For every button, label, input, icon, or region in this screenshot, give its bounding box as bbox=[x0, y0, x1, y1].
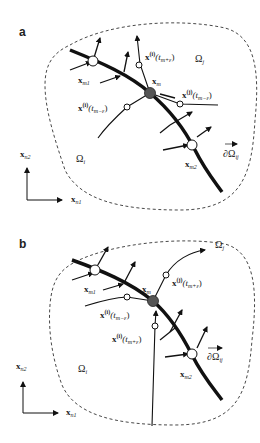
diagram-b: Ωj xm x(j)(tm+ε) xm1 x(i)(tm−ε) x(i)(tm+… bbox=[0, 220, 260, 443]
point-m1-marker bbox=[88, 56, 98, 66]
label-omega-i: Ωi bbox=[78, 363, 87, 375]
interface-curve bbox=[70, 50, 222, 192]
label-boundary: ∂Ωij bbox=[207, 351, 223, 363]
label-omega-j: Ωj bbox=[215, 239, 224, 251]
label-axis-x: xn1 bbox=[66, 407, 77, 418]
label-traj-upper: x(j)(tm+ε) bbox=[172, 277, 202, 289]
label-axis-y: xn2 bbox=[20, 149, 31, 160]
label-traj-lower: x(i)(tm+ε) bbox=[112, 333, 141, 345]
label-traj-left: x(i)(tm−ε) bbox=[78, 102, 107, 114]
label-point-m2: xm2 bbox=[185, 159, 197, 170]
label-omega-j: Ωj bbox=[195, 53, 204, 65]
label-point-m1: xm1 bbox=[84, 284, 96, 295]
traj-upper-marker bbox=[136, 62, 142, 68]
point-m-marker bbox=[148, 296, 159, 307]
diagram-a: x(i)(tm+ε) Ωj xm x(j)(tm−ε) x(i)(tm−ε) x… bbox=[0, 0, 260, 220]
label-axis-x: xn1 bbox=[71, 194, 82, 205]
label-axis-y: xn2 bbox=[16, 361, 27, 372]
point-m2-marker bbox=[187, 349, 197, 359]
traj-left-marker bbox=[124, 104, 130, 110]
point-m2-marker bbox=[187, 140, 197, 150]
label-point-m: xm bbox=[142, 284, 152, 295]
traj-upper-marker bbox=[163, 272, 169, 278]
panel-a: a x(i)(tm+ε) Ωj bbox=[0, 0, 260, 220]
point-m-marker bbox=[145, 88, 156, 99]
label-boundary: ∂Ωij bbox=[223, 148, 239, 160]
traj-right-marker bbox=[177, 101, 183, 107]
label-point-m: xm bbox=[152, 76, 162, 87]
label-omega-i: Ωi bbox=[76, 153, 85, 165]
traj-left-marker bbox=[124, 294, 130, 300]
label-traj-right: x(j)(tm−ε) bbox=[182, 89, 212, 101]
region-boundary-dashed bbox=[50, 241, 255, 425]
traj-lower-marker bbox=[152, 323, 158, 329]
label-point-m2: xm2 bbox=[180, 369, 192, 380]
label-traj-left: x(i)(tm−ε) bbox=[100, 309, 129, 321]
label-traj-upper: x(i)(tm+ε) bbox=[145, 51, 174, 63]
point-m1-marker bbox=[90, 265, 100, 275]
panel-b: b Ωj xm x(j)(tm+ε) xm1 x bbox=[0, 220, 260, 443]
label-point-m1: xm1 bbox=[78, 75, 90, 86]
